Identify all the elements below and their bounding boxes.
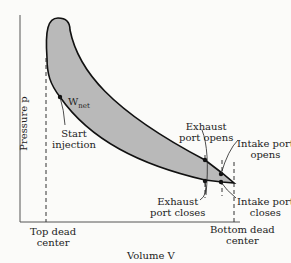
x-axis-label: Volume V <box>127 250 175 261</box>
bdc-label: Bottom deadcenter <box>210 224 275 246</box>
start-injection-label: Startinjection <box>52 128 96 150</box>
exhaust-closes-label: Exhaustport closes <box>150 196 205 218</box>
intake-closes-label: Intake portcloses <box>237 196 291 218</box>
tdc-label: Top deadcenter <box>30 226 76 248</box>
exhaust-opens-label: Exhaustport opens <box>179 121 233 143</box>
intake-opens-label: Intake portopens <box>237 138 291 160</box>
pv-diagram: Pressure p Wnet Startinjection Exhaustpo… <box>0 0 291 263</box>
work-label: Wnet <box>68 96 90 112</box>
y-axis-label: Pressure p <box>18 96 29 150</box>
